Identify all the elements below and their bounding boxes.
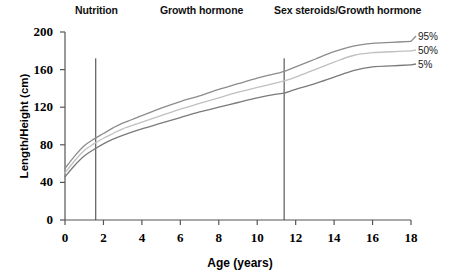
phase-dividers xyxy=(96,58,284,220)
y-tick-label-80: 80 xyxy=(23,137,53,153)
legend-leader-lines xyxy=(411,36,416,65)
growth-chart-figure: Nutrition Growth hormone Sex steroids/Gr… xyxy=(0,0,459,280)
y-tick-label-120: 120 xyxy=(23,99,53,115)
y-tick-label-160: 160 xyxy=(23,62,53,78)
legend-line-50pct xyxy=(411,50,416,51)
x-tick-label-18: 18 xyxy=(399,230,423,246)
legend-line-5pct xyxy=(411,64,416,65)
phase-label-growth-hormone: Growth hormone xyxy=(160,4,243,16)
x-tick-label-10: 10 xyxy=(245,230,269,246)
y-tick-label-40: 40 xyxy=(23,174,53,190)
x-tick-label-16: 16 xyxy=(361,230,385,246)
legend-label-50: 50% xyxy=(418,45,438,56)
x-tick-label-4: 4 xyxy=(130,230,154,246)
legend-label-5: 5% xyxy=(418,59,432,70)
x-axis-ticks xyxy=(65,220,411,225)
x-tick-label-0: 0 xyxy=(53,230,77,246)
x-tick-label-14: 14 xyxy=(322,230,346,246)
legend-label-95: 95% xyxy=(418,31,438,42)
y-axis-ticks xyxy=(60,32,65,220)
curve-95pct xyxy=(65,41,411,168)
x-tick-label-12: 12 xyxy=(284,230,308,246)
phase-label-nutrition: Nutrition xyxy=(75,4,118,16)
x-axis-title: Age (years) xyxy=(150,256,330,270)
y-tick-label-0: 0 xyxy=(23,212,53,228)
legend-line-95pct xyxy=(411,36,416,41)
x-tick-label-2: 2 xyxy=(91,230,115,246)
x-tick-label-6: 6 xyxy=(168,230,192,246)
phase-label-sex-steroids: Sex steroids/Growth hormone xyxy=(274,4,421,16)
y-tick-label-200: 200 xyxy=(23,24,53,40)
x-tick-label-8: 8 xyxy=(207,230,231,246)
curve-5pct xyxy=(65,65,411,177)
percentile-curves xyxy=(65,41,411,176)
